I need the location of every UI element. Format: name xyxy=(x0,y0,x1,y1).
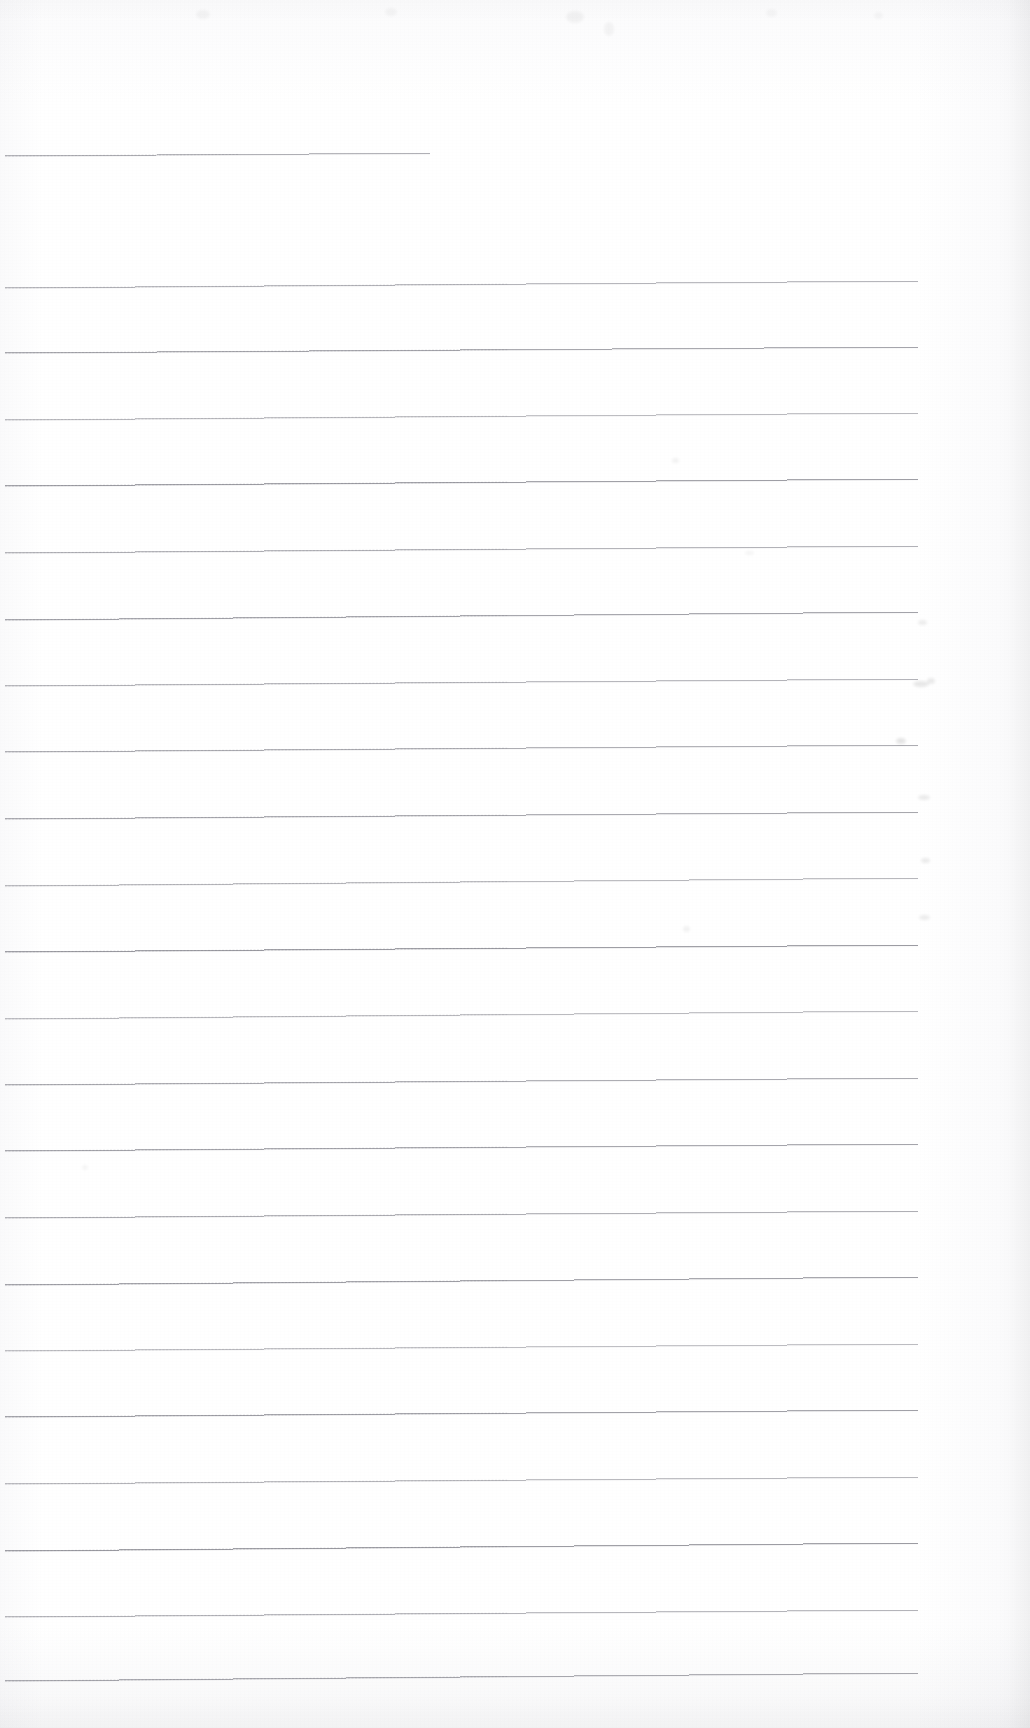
ruled-lines-layer xyxy=(0,0,1030,1728)
ruled-line xyxy=(5,1477,918,1485)
ruled-line xyxy=(5,612,918,621)
ruled-line xyxy=(5,1610,918,1618)
ruled-line xyxy=(5,1543,918,1552)
ruled-line xyxy=(5,479,918,487)
ruled-line xyxy=(5,945,918,953)
ruled-line xyxy=(5,413,918,421)
ruled-line xyxy=(5,1078,918,1086)
ruled-line xyxy=(5,878,918,887)
ruled-line xyxy=(5,1144,918,1152)
ruled-line xyxy=(5,1277,918,1286)
ruled-line xyxy=(5,281,918,289)
ruled-line xyxy=(5,1211,918,1219)
ruled-lines-svg xyxy=(0,0,1030,1728)
ruled-line xyxy=(5,347,918,354)
ruled-line xyxy=(5,1410,918,1418)
ruled-line xyxy=(5,1673,918,1682)
ruled-line xyxy=(5,153,430,156)
ruled-line xyxy=(5,812,918,820)
scanned-page xyxy=(0,0,1030,1728)
ruled-line xyxy=(5,1011,918,1020)
ruled-line xyxy=(5,546,918,554)
ruled-line xyxy=(5,679,918,687)
ruled-line xyxy=(5,1344,918,1352)
ruled-line xyxy=(5,745,918,753)
